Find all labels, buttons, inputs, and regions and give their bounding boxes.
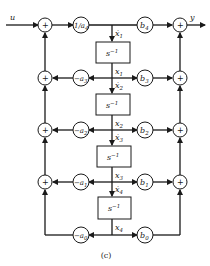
gain-b2: b2	[137, 122, 153, 138]
sum-junction-left-3: +	[38, 175, 52, 189]
state-label-1: x1	[115, 67, 123, 77]
svg-text:+: +	[42, 126, 49, 135]
derivative-label-2: ẋ2	[115, 81, 124, 91]
svg-text:+: +	[42, 178, 49, 187]
gain-b4: b4	[137, 17, 153, 33]
gain-minus-a0: −a0	[73, 227, 89, 243]
sum-junction-left-1: +	[38, 71, 52, 85]
sum-junction-right-2: +	[173, 123, 187, 137]
svg-text:+: +	[42, 21, 49, 30]
sum-junction-right-1: +	[173, 71, 187, 85]
svg-text:+: +	[42, 74, 49, 83]
sum-junction-left-2: +	[38, 123, 52, 137]
gain-minus-a1: −a1	[73, 174, 89, 190]
gain-b1: b1	[137, 174, 153, 190]
state-label-3: x3	[115, 171, 124, 181]
figure-caption: (c)	[101, 251, 112, 260]
svg-text:+: +	[177, 74, 184, 83]
gain-b3: b3	[137, 70, 153, 86]
input-label: u	[10, 13, 15, 22]
derivative-label-4: ẋ4	[115, 185, 124, 195]
sum-junction-left-0: +	[38, 18, 52, 32]
svg-text:+: +	[177, 126, 184, 135]
gain-minus-a2: −a2	[73, 122, 89, 138]
state-variable-diagram: u y s−1 s−1 s−1 s−1 ẋ1 x1 ẋ2 x2 ẋ3 x3 ẋ4…	[0, 0, 210, 266]
gain-b0: b0	[137, 227, 153, 243]
svg-text:+: +	[177, 178, 184, 187]
integrator-block-2: s−1	[96, 94, 130, 115]
derivative-label-3: ẋ3	[115, 133, 124, 143]
gain-minus-a3: −a3	[73, 70, 89, 86]
sum-junction-right-3: +	[173, 175, 187, 189]
input-signal: u	[6, 13, 38, 25]
output-label: y	[189, 13, 195, 22]
sum-junction-right-0: +	[173, 18, 187, 32]
state-label-4: x4	[115, 223, 124, 233]
svg-text:+: +	[177, 21, 184, 30]
integrator-block-1: s−1	[96, 42, 130, 63]
state-label-2: x2	[115, 119, 124, 129]
integrator-block-4: s−1	[98, 197, 131, 219]
integrator-block-3: s−1	[97, 146, 131, 167]
gain-1-over-a4: 1/a4	[73, 17, 89, 33]
derivative-label-1: ẋ1	[115, 29, 123, 39]
